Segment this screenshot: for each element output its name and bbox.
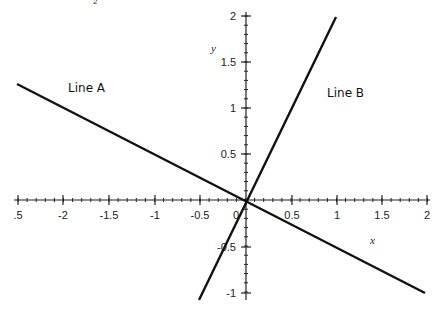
x-tick-label: .5 — [13, 209, 22, 221]
y-axis-label: y — [210, 42, 216, 54]
x-axis-label: x — [369, 234, 375, 246]
x-tick-label: -1.5 — [100, 209, 119, 221]
y-tick-label: 2 — [230, 10, 236, 22]
x-tick-label: -1 — [150, 209, 160, 221]
top-fragment-label: 2 — [93, 0, 98, 6]
x-tick-label: -0.5 — [191, 209, 210, 221]
x-tick-label: 1 — [334, 209, 340, 221]
y-tick-label: 1.5 — [221, 56, 236, 68]
chart-canvas: .5-2-1.5-1-0.500.511.52 21.510.5-0.5-1 L… — [0, 0, 441, 312]
x-axis-ticks: .5-2-1.5-1-0.500.511.52 — [13, 195, 430, 221]
x-tick-label: 2 — [424, 209, 430, 221]
y-tick-label: -1 — [226, 287, 236, 299]
x-tick-label: -2 — [58, 209, 68, 221]
y-tick-label: 1 — [230, 102, 236, 114]
line-a — [17, 84, 425, 293]
x-tick-label: 0.5 — [284, 209, 299, 221]
line-b — [199, 17, 336, 300]
y-tick-label: 0.5 — [221, 148, 236, 160]
x-tick-label: 1.5 — [374, 209, 389, 221]
line-a-label: Line A — [68, 81, 106, 95]
line-b-label: Line B — [327, 86, 364, 100]
